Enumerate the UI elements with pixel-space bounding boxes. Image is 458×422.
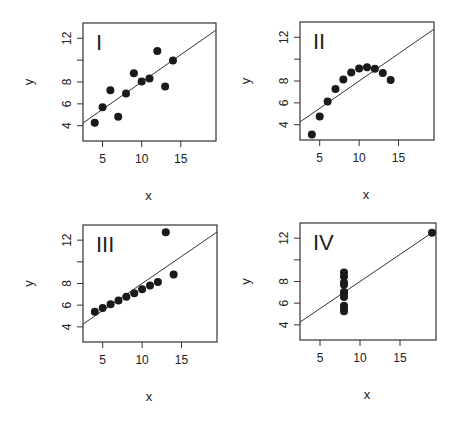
data-point [154,278,162,286]
data-point [379,69,387,77]
x-tick-label: 5 [317,351,324,365]
data-point [99,304,107,312]
y-tick-label: 6 [277,300,291,307]
data-point [170,270,178,278]
x-tick-label: 5 [99,152,106,166]
data-point [146,74,154,82]
x-tick-label: 5 [99,353,106,367]
x-tick-label: 10 [353,351,367,365]
data-point [387,76,395,84]
x-axis-title: x [364,387,371,402]
y-tick-label: 4 [60,122,74,129]
panel-IV: 5101546812xyIV [238,223,436,402]
data-point [308,131,316,139]
data-point [106,86,114,94]
y-axis-title: y [21,280,36,287]
y-tick-label: 12 [60,31,74,45]
data-point [91,308,99,316]
data-point [347,69,355,77]
panel-I: 5101546812xyI [21,23,216,203]
data-point [428,229,436,237]
data-point [331,85,339,93]
data-point [138,285,146,293]
y-tick-label: 8 [60,280,74,287]
data-point [91,119,99,127]
data-point [107,300,115,308]
data-point [339,75,347,83]
y-axis-title: y [238,77,253,84]
y-tick-label: 8 [277,278,291,285]
y-tick-label: 12 [277,231,291,245]
panel-label: III [96,232,114,257]
data-point [340,290,348,298]
data-point [122,89,130,97]
data-point [340,278,348,286]
panel-label: II [313,29,325,54]
data-point [363,63,371,71]
data-point [161,83,169,91]
data-point [122,293,130,301]
data-point [324,97,332,105]
data-point [340,304,348,312]
data-point [99,103,107,111]
data-point [153,47,161,55]
data-point [316,113,324,121]
data-point [371,65,379,73]
y-tick-label: 4 [277,121,291,128]
y-axis-title: y [21,78,36,85]
x-axis-title: x [145,188,152,203]
y-tick-label: 12 [277,30,291,44]
x-tick-label: 5 [316,151,323,165]
y-tick-label: 12 [60,233,74,247]
y-tick-label: 8 [60,78,74,85]
x-axis-title: x [146,389,153,404]
panel-II: 5101546812xyII [238,22,434,202]
y-tick-label: 6 [60,302,74,309]
data-point [130,69,138,77]
x-tick-label: 15 [175,353,189,367]
data-point [162,228,170,236]
x-tick-label: 10 [135,353,149,367]
y-tick-label: 8 [277,77,291,84]
x-tick-label: 15 [393,351,407,365]
y-tick-label: 6 [277,99,291,106]
y-tick-label: 4 [60,323,74,330]
data-point [138,78,146,86]
data-point [114,297,122,305]
x-axis-title: x [363,187,370,202]
anscombe-quartet-chart: 5101546812xyI 5101546812xyII 5101546812x… [0,0,458,422]
data-point [130,289,138,297]
data-point [355,65,363,73]
panel-label: I [96,30,102,55]
panel-label: IV [313,230,334,255]
x-tick-label: 15 [174,152,188,166]
data-point [169,57,177,65]
x-tick-label: 10 [135,152,149,166]
y-tick-label: 6 [60,100,74,107]
data-point [114,113,122,121]
x-tick-label: 15 [392,151,406,165]
x-tick-label: 10 [352,151,366,165]
y-tick-label: 4 [277,321,291,328]
data-point [146,282,154,290]
panel-III: 5101546812xyIII [21,225,217,404]
y-axis-title: y [238,278,253,285]
